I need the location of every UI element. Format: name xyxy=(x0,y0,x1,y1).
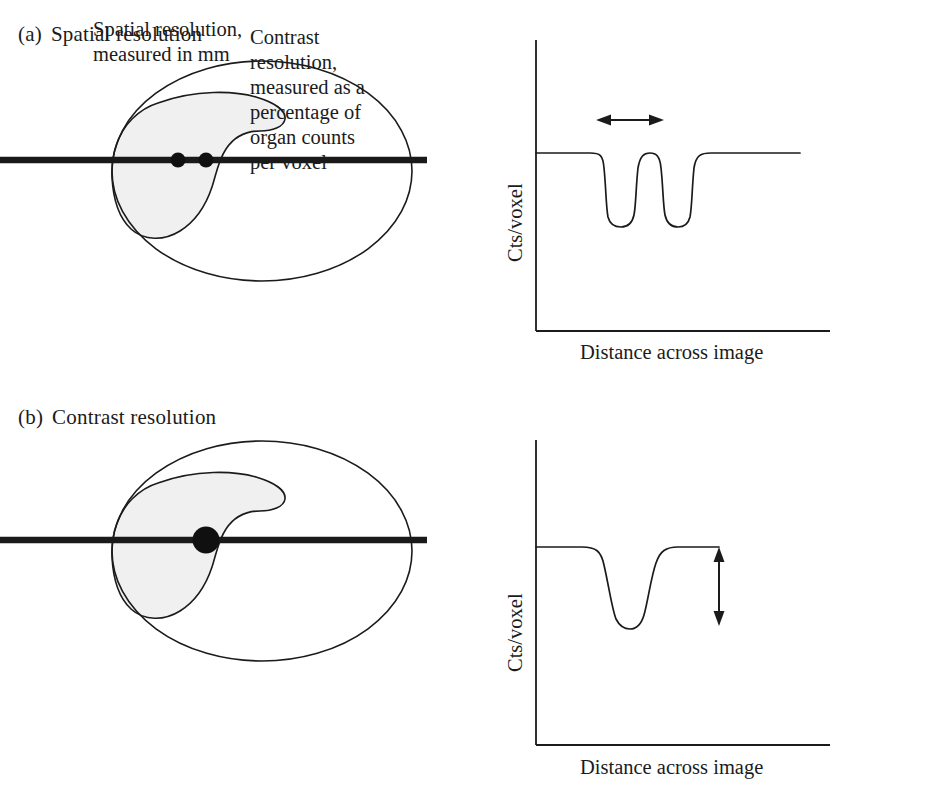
chart-b-x-axis-label: Distance across image xyxy=(580,756,763,779)
contrast-resolution-arrow xyxy=(714,547,725,626)
chart-a-profile-curve xyxy=(536,153,800,227)
panel-a-chart xyxy=(470,35,931,365)
panel-b-annotation: Contrast resolution, measured as a perce… xyxy=(250,25,365,175)
spatial-resolution-arrow xyxy=(596,115,664,126)
lesion-dot-b-1 xyxy=(193,527,220,554)
chart-b-y-axis-label: Cts/voxel xyxy=(504,593,527,672)
lesion-dot-a-1 xyxy=(171,153,186,168)
lesion-dot-a-2 xyxy=(199,153,214,168)
chart-a-y-axis-label: Cts/voxel xyxy=(504,183,527,262)
panel-a-annotation: Spatial resolution, measured in mm xyxy=(93,17,242,67)
chart-a-x-axis-label: Distance across image xyxy=(580,341,763,364)
panel-b-chart xyxy=(470,425,931,755)
panel-a-tag: (a) xyxy=(18,22,42,46)
panel-b-anatomy-diagram xyxy=(0,425,470,715)
chart-b-profile-curve xyxy=(536,547,719,629)
panel-a-anatomy-diagram xyxy=(0,45,470,335)
